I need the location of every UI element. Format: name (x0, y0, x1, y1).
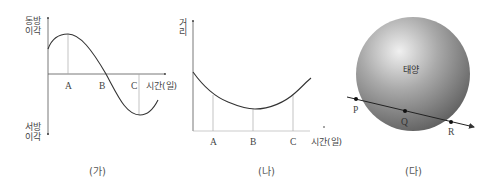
point-r-dot (449, 120, 453, 124)
svg-text:이각: 이각 (25, 25, 41, 36)
point-p-dot (354, 97, 358, 101)
panel-ga-elongation-graph: 동방 이각 서방 이각 A B C 시간(일) (가) (25, 16, 177, 177)
point-a: A (210, 137, 217, 147)
point-q-dot (403, 109, 407, 113)
caption-ga: (가) (89, 166, 106, 177)
panel-na-distance-graph: 거 리 A B C 시간(일) (나) (179, 18, 342, 177)
point-c: C (290, 137, 296, 147)
svg-text:리: 리 (179, 27, 187, 37)
point-a: A (65, 81, 72, 91)
panel-da-sun-transit: 태양 P Q R (다) (347, 17, 474, 177)
elongation-curve (48, 34, 158, 115)
figure: 동방 이각 서방 이각 A B C 시간(일) (가) 거 리 A B C 시간… (0, 0, 499, 190)
point-c: C (131, 81, 137, 91)
caption-da: (다) (405, 166, 422, 177)
y-bottom-label: 서방 (25, 122, 41, 132)
point-b: B (250, 137, 256, 147)
y-top-label: 동방 (25, 16, 41, 26)
point-b: B (99, 81, 105, 91)
caption-na: (나) (258, 166, 275, 177)
point-r: R (448, 127, 455, 137)
x-axis-label: 시간(일) (311, 137, 342, 147)
sun-label: 태양 (403, 65, 419, 75)
x-axis-label: 시간(일) (146, 81, 177, 91)
point-q: Q (401, 117, 408, 127)
point-p: P (353, 105, 358, 115)
svg-text:이각: 이각 (25, 131, 41, 142)
